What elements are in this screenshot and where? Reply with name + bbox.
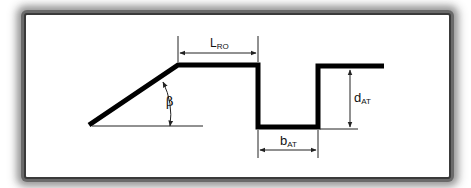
profile-diagram: β LRO dAT bAT xyxy=(0,0,471,188)
beta-label: β xyxy=(166,94,174,109)
profile-line xyxy=(89,65,384,127)
l-ro-label: LRO xyxy=(210,36,229,51)
b-at-label: bAT xyxy=(280,133,297,149)
d-at-label: dAT xyxy=(354,90,371,106)
